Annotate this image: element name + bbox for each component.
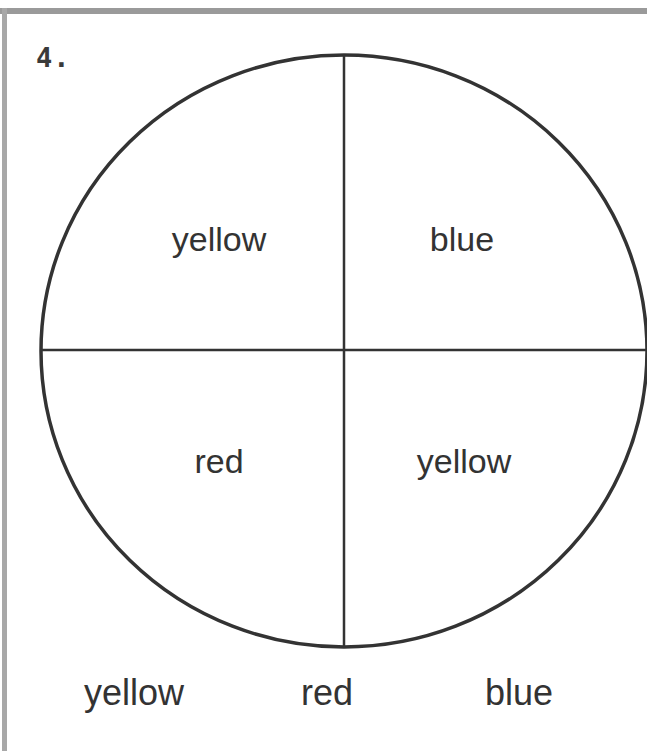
answer-choice-yellow[interactable]: yellow bbox=[84, 672, 184, 714]
spinner-section-top-right: blue bbox=[430, 220, 494, 259]
spinner-section-bottom-right: yellow bbox=[417, 442, 511, 481]
answer-choice-red[interactable]: red bbox=[301, 672, 353, 714]
spinner-section-bottom-left: red bbox=[194, 442, 243, 481]
spinner-section-top-left: yellow bbox=[172, 220, 266, 259]
answer-choice-blue[interactable]: blue bbox=[485, 672, 553, 714]
spinner-diagram bbox=[0, 0, 647, 751]
